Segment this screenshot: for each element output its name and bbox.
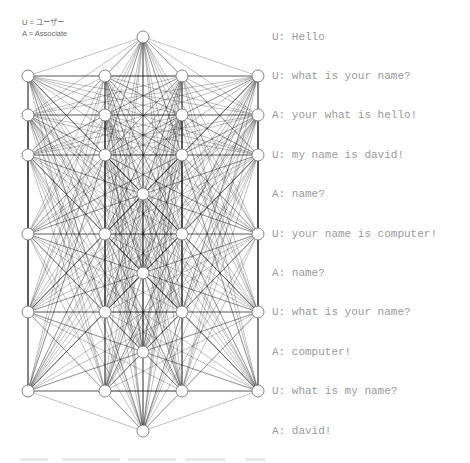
network-node (176, 149, 188, 161)
chat-line-user: U: Hello (272, 31, 325, 43)
network-node (22, 70, 34, 82)
chat-line-associate: A: computer! (272, 346, 351, 358)
network-node (22, 385, 34, 397)
chat-line-user: U: what is your name? (272, 70, 411, 82)
network-node (99, 149, 111, 161)
network-node (99, 306, 111, 318)
network-node (22, 109, 34, 121)
chat-line-associate: A: name? (272, 267, 325, 279)
network-node (252, 385, 264, 397)
network-node (137, 188, 149, 200)
network-node (252, 109, 264, 121)
network-node (137, 267, 149, 279)
network-edge (28, 352, 143, 391)
network-node (22, 149, 34, 161)
network-edge (143, 352, 258, 391)
network-node (137, 31, 149, 43)
network-node (22, 306, 34, 318)
network-node (99, 70, 111, 82)
network-edge (28, 37, 143, 76)
network-node (137, 425, 149, 437)
chat-line-user: U: my name is david! (272, 149, 404, 161)
network-edge (105, 391, 143, 431)
network-edge (143, 391, 258, 431)
network-node (137, 346, 149, 358)
association-network-graph (0, 0, 270, 463)
network-node (99, 385, 111, 397)
network-edge (28, 391, 143, 431)
chat-line-associate: A: your what is hello! (272, 109, 417, 121)
network-edge (143, 37, 258, 76)
network-node (176, 109, 188, 121)
chat-line-user: U: what is my name? (272, 385, 397, 397)
network-node (176, 70, 188, 82)
network-node (99, 228, 111, 240)
network-node (99, 109, 111, 121)
chat-line-associate: A: name? (272, 188, 325, 200)
chat-line-user: U: your name is computer! (272, 228, 437, 240)
network-node (22, 228, 34, 240)
network-node (252, 228, 264, 240)
network-edge (143, 391, 182, 431)
network-node (252, 149, 264, 161)
network-node (176, 385, 188, 397)
network-node (176, 306, 188, 318)
network-node (252, 70, 264, 82)
network-node (176, 228, 188, 240)
chat-line-associate: A: david! (272, 425, 331, 437)
chat-line-user: U: what is your name? (272, 306, 411, 318)
network-edge (143, 115, 258, 352)
network-node (252, 306, 264, 318)
truncated-footer-text (20, 456, 320, 463)
network-edges (28, 37, 258, 431)
